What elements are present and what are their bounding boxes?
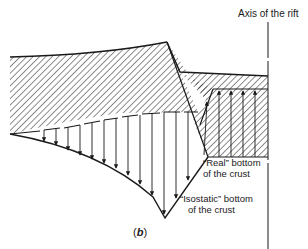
real-bottom-label: “Real” bottom of the crust bbox=[203, 157, 261, 179]
axis-of-rift-label: Axis of the rift bbox=[238, 8, 299, 19]
isostatic-bottom-label: “Isostatic” bottom of the crust bbox=[180, 193, 253, 215]
isostatic-bottom-label-line2: of the crust bbox=[180, 204, 253, 215]
panel-label-close: ) bbox=[143, 226, 147, 238]
isostatic-bottom-curve bbox=[10, 134, 208, 218]
panel-label: (b) bbox=[133, 227, 147, 238]
crust-cross-section bbox=[0, 0, 308, 249]
isostatic-bottom-label-line1: “Isostatic” bottom bbox=[180, 193, 253, 204]
real-bottom-label-line1: “Real” bottom bbox=[203, 157, 261, 168]
real-bottom-label-line2: of the crust bbox=[203, 168, 261, 179]
